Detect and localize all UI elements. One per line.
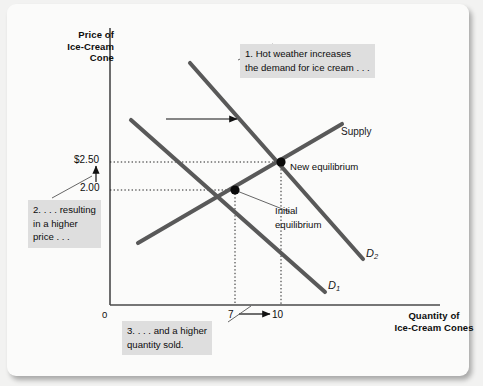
- demand-d1-subscript: 1: [336, 284, 340, 293]
- initial-equilibrium-label: Initial equilibrium: [275, 204, 321, 231]
- demand-curve-d1-label: D1: [328, 279, 340, 293]
- demand-d2-letter: D: [366, 247, 374, 259]
- y-axis-title: Price of Ice-Cream Cone: [52, 29, 114, 64]
- demand-curve-d2-label: D2: [366, 247, 378, 261]
- figure-page: Price of Ice-Cream Cone Quantity of Ice-…: [0, 0, 483, 386]
- demand-d1-letter: D: [328, 279, 336, 291]
- initial-equilibrium-point: [230, 185, 239, 194]
- supply-curve-label: Supply: [341, 126, 372, 137]
- origin-label: 0: [102, 309, 107, 321]
- annotation-demand-increase: 1. Hot weather increases the demand for …: [240, 44, 375, 78]
- demand-d2-subscript: 2: [374, 252, 378, 261]
- annotation-higher-quantity: 3. . . . and a higher quantity sold.: [122, 321, 212, 355]
- y-tick-label-200: 2.00: [80, 182, 99, 194]
- x-tick-label-10: 10: [272, 309, 283, 321]
- annotation-higher-price: 2. . . . resulting in a higher price . .…: [28, 200, 101, 248]
- x-tick-label-7: 7: [228, 309, 234, 321]
- y-tick-label-250: $2.50: [74, 154, 99, 166]
- new-equilibrium-point: [276, 157, 285, 166]
- x-axis-title: Quantity of Ice-Cream Cones: [388, 310, 480, 333]
- new-equilibrium-label: New equilibrium: [290, 160, 358, 174]
